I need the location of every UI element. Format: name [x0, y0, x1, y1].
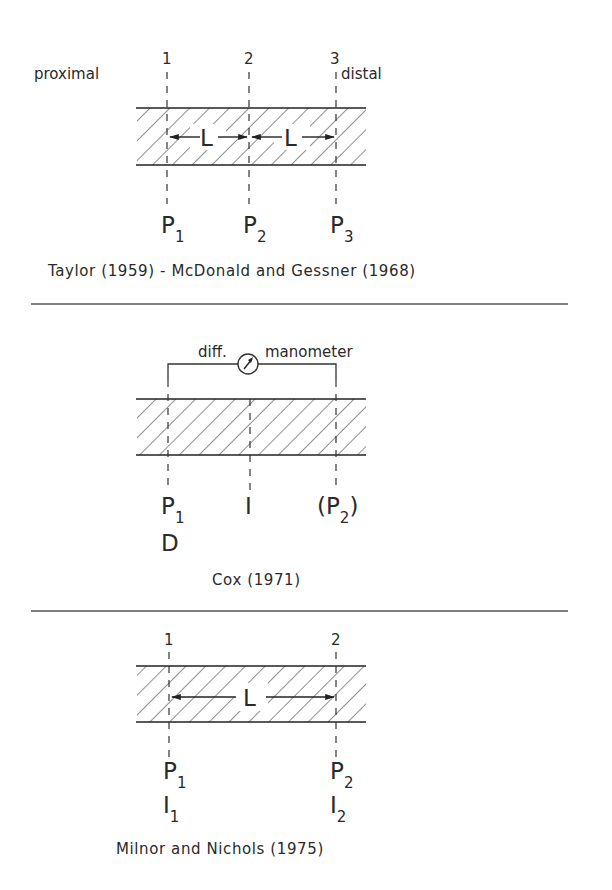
- pressure-label-P1: P1: [161, 212, 184, 246]
- station-number-1: 1: [164, 631, 174, 649]
- caption-milnor: Milnor and Nichols (1975): [116, 840, 324, 858]
- manometer-label-diff: diff.: [198, 343, 227, 361]
- flow-label-I2: I2: [330, 792, 346, 826]
- flow-label-I: I: [245, 493, 252, 519]
- pressure-label-P2: P2: [330, 758, 353, 792]
- manometer-label: manometer: [265, 343, 353, 361]
- vessel-wall-hatch: [137, 399, 366, 455]
- station-number-2: 2: [331, 631, 341, 649]
- proximal-label: proximal: [34, 65, 99, 83]
- caption-cox: Cox (1971): [212, 571, 301, 589]
- pressure-label-P3: P3: [330, 212, 353, 246]
- panel-taylor: proximal distal 1 2 3 L L P1 P2 P3 Taylo…: [34, 50, 416, 280]
- caption-taylor: Taylor (1959) - McDonald and Gessner (19…: [47, 262, 416, 280]
- panel-cox: diff. manometer P1 D I (P2) Cox (1971): [136, 343, 366, 589]
- diameter-label-D: D: [161, 530, 179, 556]
- station-number-2: 2: [244, 50, 254, 68]
- pressure-gauge-icon: [238, 354, 258, 374]
- pressure-label-P1: P1: [161, 493, 184, 527]
- station-number-3: 3: [330, 50, 340, 68]
- station-number-1: 1: [162, 50, 172, 68]
- pressure-label-P2: P2: [243, 212, 266, 246]
- pressure-label-P1: P1: [163, 758, 186, 792]
- panel-milnor: 1 2 L P1 I1 P2 I2 Milnor and Nichols (19…: [116, 631, 366, 858]
- spacing-label-L-2: L: [284, 125, 297, 151]
- spacing-label-L: L: [243, 685, 256, 711]
- flow-label-I1: I1: [163, 792, 179, 826]
- distal-label: distal: [341, 65, 382, 83]
- pressure-measurement-diagram: proximal distal 1 2 3 L L P1 P2 P3 Taylo…: [0, 0, 612, 890]
- pressure-label-P2: (P2): [317, 493, 358, 527]
- spacing-label-L-1: L: [200, 125, 213, 151]
